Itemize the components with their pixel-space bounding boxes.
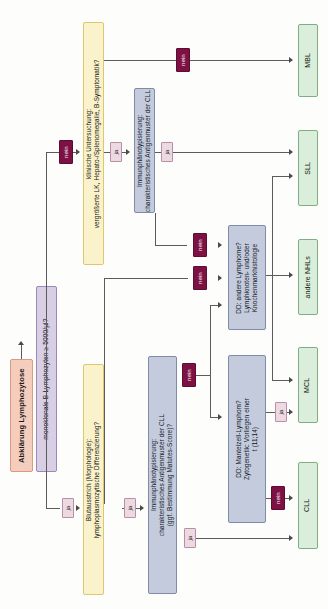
connector-immuno-bottom-nein-down <box>210 417 218 418</box>
node-outcome-cll: CLL <box>298 462 318 549</box>
node-immuno-bottom-line1: Immunphänotypisierung: <box>151 439 158 511</box>
node-outcome-sll: SLL <box>298 130 318 206</box>
arrowhead-immuno-bottom-to-dd-mantle <box>218 414 222 420</box>
connector-immuno-bottom-nein-stub <box>196 375 210 376</box>
edge-label-ja-immuno-top-to-sll: ja <box>161 142 173 162</box>
node-immunphaenotypisierung-bottom: Immunphänotypisierung: charakteristische… <box>148 356 177 594</box>
flowchart-canvas: Abklärung Lymphozytose monoklonale B-Lym… <box>0 0 328 609</box>
node-dd-mantle-line2: Zytogenetik: Vorliegen einer <box>243 398 250 480</box>
edge-label-ja-blutausstrich-to-immuno-bottom: ja <box>124 498 136 518</box>
connector-monoclonal-nein-vertical <box>46 152 47 472</box>
edge-label-ja-monoklonale-to-blutausstrich: ja <box>62 498 74 518</box>
edge-label-nein-6-text: nein <box>275 492 281 504</box>
connector-monoclonal-ja-horizontal <box>46 508 60 509</box>
edge-label-ja-1-text: ja <box>65 506 71 511</box>
edge-label-nein-immuno-top-to-dd-other: nein <box>193 233 207 257</box>
edge-label-nein-immuno-bottom: nein <box>182 363 196 387</box>
node-dd-mantle-line3: t (11;14) <box>251 427 258 451</box>
edge-label-nein-klinische-to-mbl: nein <box>176 48 190 72</box>
node-immuno-bottom-line3: (ggf. Bestimmung Matutes-Score)? <box>167 424 174 526</box>
edge-label-nein-4-text: nein <box>197 272 203 284</box>
node-blutausstrich-label: Blutausstrich (Morphologie): lymphoplasm… <box>86 421 102 538</box>
node-immuno-top-line2: charakteristisches Antigenmuster der CLL <box>145 89 152 211</box>
node-dd-other-line2: Lymphknoten- und/oder <box>243 243 250 312</box>
edge-label-nein-dd-mantle-to-cll: nein <box>271 486 285 510</box>
node-dd-andere-lymphome-label: DD: andere Lymphome? Lymphknoten- und/od… <box>235 242 259 313</box>
arrowhead-junction-to-sll <box>289 173 293 179</box>
node-outcome-mbl-label: MBL <box>304 53 313 68</box>
node-dd-mantelzell-label: DD: Mantelzell-Lymphom? Zytogenetik: Vor… <box>235 398 259 480</box>
connector-start-to-monoclonal <box>21 345 22 359</box>
arrowhead-dd-mantle-nein-to-cll <box>289 495 293 501</box>
node-dd-other-line1: DD: andere Lymphome? <box>235 242 242 313</box>
connector-monoclonal-ja-vertical <box>46 472 47 508</box>
node-immunphaenotypisierung-top-label: Immunphänotypisierung: charakteristische… <box>137 89 153 211</box>
connector-junction-to-andere-nhls <box>272 275 290 276</box>
arrowhead-to-blood-smear <box>76 505 80 511</box>
arrowhead-immuno-bottom-ja-to-cll <box>289 535 293 541</box>
node-outcome-mcl-label: MCL <box>304 377 313 392</box>
edge-label-ja-5-text: ja <box>187 536 193 541</box>
edge-label-nein-3-text: nein <box>197 239 203 251</box>
arrowhead-to-immuno-top <box>126 149 130 155</box>
node-outcome-andere-nhls: andere NHLs <box>298 239 318 315</box>
node-outcome-mbl: MBL <box>298 24 318 97</box>
node-start-label: Abklärung Lymphozytose <box>17 368 26 463</box>
edge-label-nein-2-text: nein <box>180 54 186 66</box>
edge-label-nein-5-text: nein <box>186 369 192 381</box>
arrowhead-immuno-top-nein <box>218 242 222 248</box>
node-outcome-cll-label: CLL <box>304 499 313 512</box>
edge-label-ja-4-text: ja <box>127 506 133 511</box>
connector-junction-to-sll <box>272 176 290 177</box>
node-immuno-top-line1: Immunphänotypisierung: <box>137 114 144 186</box>
arrowhead-to-sll <box>289 149 293 155</box>
node-start-abklaerung-lymphozytose: Abklärung Lymphozytose <box>10 359 33 472</box>
edge-label-ja-3-text: ja <box>164 150 170 155</box>
arrowhead-to-mbl <box>289 57 293 63</box>
arrowhead-to-clinical-exam <box>76 149 80 155</box>
node-outcome-mcl: MCL <box>298 347 318 423</box>
connector-dd-other-junction-vertical <box>272 176 273 380</box>
edge-label-nein-monoklonale-to-klinische: nein <box>59 140 73 164</box>
node-immuno-bottom-line2: charakteristisches Antigenmuster der CLL <box>159 414 166 536</box>
edge-label-nein-blutausstrich-to-dd-other: nein <box>193 266 207 290</box>
connector-blood-smear-nein-vertical <box>104 278 105 504</box>
connector-immuno-top-ja-to-sll <box>155 152 290 153</box>
arrowhead-junction-to-mcl <box>289 377 293 383</box>
connector-immuno-top-nein-horizontal <box>155 245 187 246</box>
node-immunphaenotypisierung-top: Immunphänotypisierung: charakteristische… <box>134 88 155 213</box>
arrowhead-immuno-bottom-to-dd-other <box>218 302 222 308</box>
edge-label-ja-6-text: ja <box>278 410 284 415</box>
node-dd-mantle-line1: DD: Mantelzell-Lymphom? <box>235 400 242 477</box>
connector-immuno-top-nein-vertical <box>155 213 156 245</box>
node-outcome-andere-nhls-label: andere NHLs <box>304 256 313 298</box>
edge-label-ja-klinische-to-immuno: ja <box>110 142 122 162</box>
node-dd-andere-lymphome: DD: andere Lymphome? Lymphknoten- und/od… <box>228 225 266 330</box>
connector-blood-smear-nein-horizontal <box>104 278 188 279</box>
node-klinische-untersuchung-label: klinische Untersuchung: vergrößerte LK, … <box>86 59 102 228</box>
arrowhead-dd-mantle-to-mcl <box>289 409 293 415</box>
connector-immuno-bottom-nein-up <box>210 305 218 306</box>
edge-label-nein-1-text: nein <box>63 146 69 158</box>
arrowhead-to-immuno-bottom <box>140 505 144 511</box>
connector-junction-to-mcl <box>272 380 290 381</box>
connector-immuno-bottom-ja-to-cll <box>196 538 290 539</box>
node-klinische-untersuchung-line1: klinische Untersuchung: <box>86 108 93 178</box>
node-blutausstrich-line2: lymphoplasmozytische Differenzierung? <box>94 421 101 538</box>
arrowhead-to-andere-nhls <box>289 272 293 278</box>
node-klinische-untersuchung-line2: vergrößerte LK, Hepato-/Splenomegalie, B… <box>94 59 101 228</box>
edge-label-ja-2-text: ja <box>113 150 119 155</box>
node-immunphaenotypisierung-bottom-label: Immunphänotypisierung: charakteristische… <box>151 414 175 536</box>
edge-label-ja-immuno-bottom-to-cll: ja <box>184 528 196 548</box>
connector-clinical-nein-to-mbl <box>104 60 290 61</box>
node-blutausstrich-morphologie: Blutausstrich (Morphologie): lymphoplasm… <box>83 364 104 595</box>
edge-label-ja-dd-mantle-to-mcl: ja <box>275 402 287 422</box>
node-blutausstrich-line1: Blutausstrich (Morphologie): <box>86 438 93 520</box>
node-dd-other-line3: Knochenmarkhistologie <box>251 243 258 312</box>
node-klinische-untersuchung: klinische Untersuchung: vergrößerte LK, … <box>83 22 104 265</box>
arrowhead-blood-smear-nein <box>218 275 222 281</box>
connector-immuno-bottom-nein-split <box>210 305 211 417</box>
node-outcome-sll-label: SLL <box>304 162 313 175</box>
node-dd-mantelzell-lymphom: DD: Mantelzell-Lymphom? Zytogenetik: Vor… <box>228 355 266 523</box>
arrowhead-start-to-monoclonal <box>18 341 24 345</box>
